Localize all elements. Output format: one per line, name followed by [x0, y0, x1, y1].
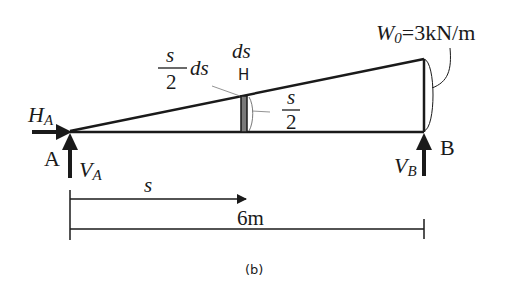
label-a: A: [44, 146, 60, 171]
reaction-va-arrow: [62, 133, 78, 178]
frac-right-num: s: [287, 85, 295, 109]
w0-leader-line: [432, 48, 450, 88]
reaction-vb-arrow: [416, 133, 432, 176]
s-dimension-label: s: [144, 173, 152, 197]
strip-leader-right: [252, 111, 270, 112]
label-b: B: [440, 135, 455, 160]
beam-load-diagram: HA A VA B VB W0=3kN/m s 2 ds ds H s 2 s …: [0, 0, 529, 291]
strip-leader-left: [212, 86, 240, 96]
frac-left-den: 2: [166, 70, 177, 94]
label-va: VA: [79, 157, 102, 183]
label-w0: W0=3kN/m: [376, 20, 475, 46]
strip-element: [241, 96, 247, 132]
label-vb: VB: [394, 153, 417, 179]
frac-left-num: s: [166, 43, 174, 67]
frac-left-ds: ds: [190, 56, 209, 80]
strip-bracket-curve: [249, 97, 253, 131]
figure-caption: (b): [245, 262, 263, 277]
label-ha: HA: [27, 102, 54, 128]
load-bracket-curve: [424, 59, 433, 131]
label-ds-top: ds: [232, 39, 251, 63]
frac-right-den: 2: [286, 110, 297, 134]
strip-marker-label: H: [238, 66, 249, 84]
span-dimension-label: 6m: [237, 206, 264, 230]
